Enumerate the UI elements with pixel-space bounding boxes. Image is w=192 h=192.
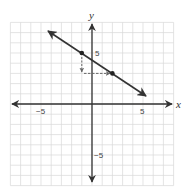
y-tick-label-5: 5 xyxy=(95,49,100,58)
x-tick-label-neg5: −5 xyxy=(36,107,46,116)
point-neg1-5 xyxy=(80,51,85,56)
x-tick-label-5: 5 xyxy=(140,107,145,116)
point-2-3 xyxy=(110,71,115,76)
y-axis-label: y xyxy=(88,9,94,21)
x-axis-label: x xyxy=(175,98,181,110)
coordinate-plane: x y −5 5 5 −5 xyxy=(0,0,192,192)
y-tick-label-neg5: −5 xyxy=(94,151,104,160)
